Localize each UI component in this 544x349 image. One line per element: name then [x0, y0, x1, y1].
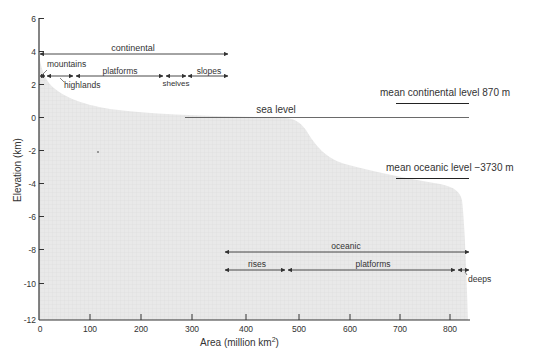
- slopes-label: slopes: [197, 66, 222, 76]
- y-tick-label: 0: [31, 113, 36, 123]
- y-tick-label: -4: [28, 179, 36, 189]
- y-tick-label: 2: [31, 80, 36, 90]
- y-tick-label: -8: [28, 245, 36, 255]
- platforms-cont-label: platforms: [103, 66, 138, 76]
- rises-label: rises: [248, 259, 266, 269]
- speck: [97, 151, 99, 153]
- y-tick-label: 4: [31, 47, 36, 57]
- y-tick-label: -12: [24, 315, 37, 325]
- mountains-leader: [43, 70, 47, 74]
- x-tick-label: 400: [239, 324, 253, 334]
- sea-level-label: sea level: [256, 104, 295, 115]
- x-tick-label: 800: [443, 324, 457, 334]
- x-tick-label: 500: [292, 324, 306, 334]
- y-tick-label: -2: [28, 146, 36, 156]
- x-tick-label: 600: [343, 324, 357, 334]
- oceanic-label: oceanic: [331, 241, 361, 251]
- hypsometric-chart: 6 4 2 0 -2 -4 -6 -8 -10 -12 0 100 200 30…: [0, 0, 544, 349]
- y-tick-label: -10: [24, 279, 37, 289]
- x-tick-label: 0: [38, 324, 43, 334]
- x-axis-title: Area (million km2): [200, 336, 279, 348]
- x-tick-label: 200: [134, 324, 148, 334]
- x-tick-label: 300: [185, 324, 199, 334]
- y-tick-label: -6: [28, 212, 36, 222]
- continental-label: continental: [111, 43, 155, 53]
- y-axis-title: Elevation (km): [12, 138, 23, 202]
- y-tick-label: 6: [31, 14, 36, 24]
- platforms-ocean-label: platforms: [356, 259, 391, 269]
- x-tick-label: 700: [393, 324, 407, 334]
- deeps-label: deeps: [468, 274, 491, 284]
- x-tick-label: 100: [83, 324, 97, 334]
- highlands-label: highlands: [64, 80, 100, 90]
- mountains-label: mountains: [47, 59, 86, 69]
- shelves-label: shelves: [162, 79, 189, 88]
- mean-oceanic-label: mean oceanic level −3730 m: [386, 162, 514, 173]
- mean-continental-label: mean continental level 870 m: [380, 87, 510, 98]
